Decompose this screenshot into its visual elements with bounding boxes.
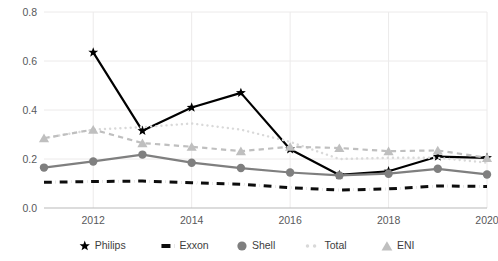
legend-item-exxon[interactable]: Exxon [161,239,208,251]
legend-label: Total [324,239,346,251]
x-tick-label: 2018 [377,214,401,226]
series-line [44,123,487,162]
y-axis-tick-labels: 0.00.20.40.60.8 [22,6,37,214]
legend-label: Exxon [179,239,208,251]
y-tick-label: 0.2 [22,153,37,165]
legend-item-shell[interactable]: Shell [237,239,275,251]
y-tick-label: 0.4 [22,104,37,116]
series-line [44,181,487,190]
y-tick-label: 0.6 [22,55,37,67]
chart-container: 0.00.20.40.60.8 20122014201620182020 Phi… [0,0,498,261]
series-eni [39,125,492,162]
legend-item-total[interactable]: Total [307,239,346,251]
y-tick-label: 0.8 [22,6,37,18]
series-line [44,130,487,158]
legend-label: ENI [397,239,415,251]
y-tick-label: 0.0 [22,202,37,214]
data-point-marker [138,150,146,158]
data-point-marker [187,158,195,166]
data-point-marker [335,171,343,179]
data-point-marker [286,168,294,176]
star-icon [80,241,90,251]
x-tick-label: 2020 [475,214,498,226]
data-point-marker [40,163,48,171]
circle-icon [237,241,246,250]
x-tick-label: 2012 [82,214,106,226]
x-axis-tick-labels: 20122014201620182020 [82,214,498,226]
horizontal-gridlines [44,12,487,159]
legend-label: Philips [95,239,126,251]
triangle-icon [382,241,393,250]
data-point-marker [483,170,491,178]
x-tick-label: 2016 [278,214,302,226]
x-tick-label: 2014 [180,214,204,226]
series-total [44,123,487,162]
data-point-marker [89,157,97,165]
series-layer [39,47,492,190]
data-point-marker [384,170,392,178]
legend-item-eni[interactable]: ENI [382,239,415,251]
legend-label: Shell [252,239,275,251]
data-point-marker [434,165,442,173]
data-point-marker [237,164,245,172]
line-chart: 0.00.20.40.60.8 20122014201620182020 Phi… [0,0,498,261]
legend-item-philips[interactable]: Philips [80,239,126,251]
series-shell [40,150,491,179]
series-line [44,155,487,176]
series-exxon [44,181,487,190]
chart-legend: PhilipsExxonShellTotalENI [80,239,415,251]
